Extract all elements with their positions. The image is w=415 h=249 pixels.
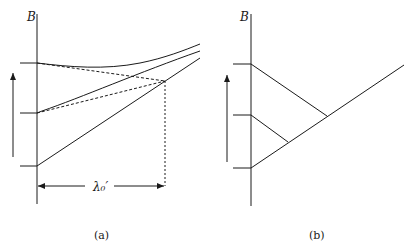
dashed-top-a — [37, 63, 165, 81]
dimension-label-a: λ₀′ — [92, 180, 108, 194]
line-top-descending-b — [251, 64, 327, 116]
figure-canvas: B λ₀′ (a) B (b) — [0, 0, 415, 249]
dashed-mid-a — [37, 81, 165, 113]
axis-label-b: B — [239, 10, 249, 24]
caption-a: (a) — [94, 229, 109, 242]
panel-a — [13, 14, 200, 204]
line-mid-descending-b — [251, 115, 288, 142]
panel-b — [227, 14, 404, 206]
line-bottom-rising-b — [251, 65, 404, 168]
axis-label-a: B — [26, 10, 36, 24]
curve-top-a — [37, 44, 200, 67]
curve-mid-a — [37, 51, 200, 113]
caption-b: (b) — [309, 229, 325, 242]
